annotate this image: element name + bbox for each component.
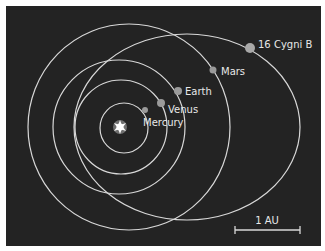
orbit-diagram: Mercury Venus Earth Mars 16 Cygni B 1 AU <box>0 0 325 251</box>
planet-earth <box>174 87 182 95</box>
scale-bar-label: 1 AU <box>255 215 279 226</box>
planet-venus <box>157 99 165 107</box>
planet-mercury <box>142 107 148 113</box>
label-mars: Mars <box>221 66 245 77</box>
label-earth: Earth <box>185 86 212 97</box>
orbit-mars <box>28 24 230 230</box>
planet-16-cygni-b <box>245 43 255 53</box>
label-16-cygni-b: 16 Cygni B <box>258 39 312 50</box>
star-burst-icon <box>113 120 127 134</box>
label-mercury: Mercury <box>143 117 184 128</box>
orbit-16-cygni-b <box>74 34 300 220</box>
planet-mars <box>210 67 217 74</box>
scale-bar <box>235 226 300 234</box>
label-venus: Venus <box>168 104 198 115</box>
